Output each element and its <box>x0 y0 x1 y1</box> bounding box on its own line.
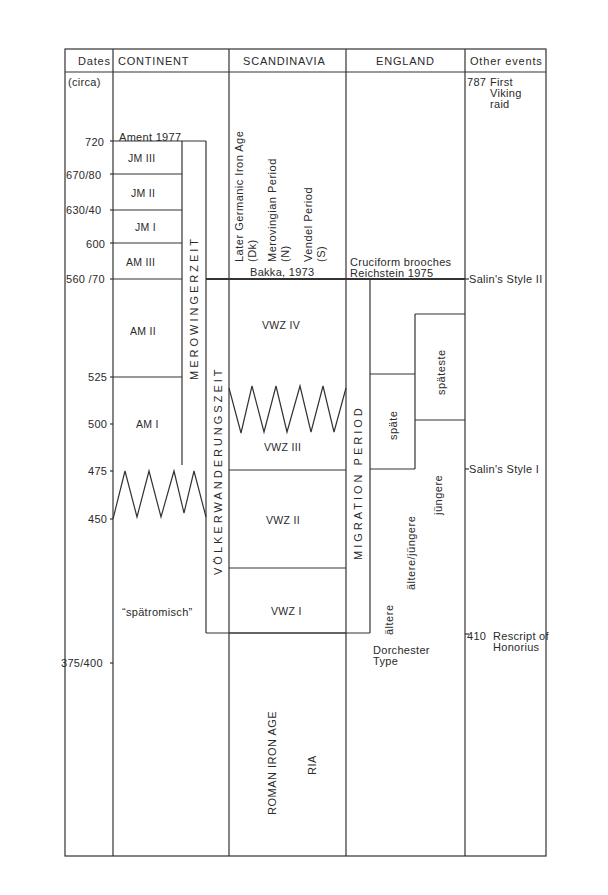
event-viking-line3: raid <box>490 98 510 110</box>
source-ament-1977: Ament 1977 <box>119 131 181 143</box>
phase-spate: späte <box>387 411 399 440</box>
date-525: 525 <box>88 371 107 383</box>
date-560: 560 /70 <box>66 273 105 285</box>
event-salin-style-1: Salin's Style I <box>469 463 539 475</box>
phase-spateste: späteste <box>435 349 447 395</box>
period-code-n: (N) <box>279 245 291 262</box>
event-honorius-line2: Honorius <box>493 641 539 653</box>
phase-jm3: JM III <box>128 152 155 164</box>
period-vendel: Vendel Period <box>302 187 314 262</box>
date-475: 475 <box>88 465 107 477</box>
phase-vwz2: VWZ II <box>266 514 300 526</box>
date-450: 450 <box>88 513 107 525</box>
source-type: Type <box>373 655 398 667</box>
band-merowingerzeit: MEROWINGERZEIT <box>188 236 200 380</box>
period-later-germanic-iron-age: Later Germanic Iron Age <box>233 131 245 262</box>
phase-vwz3: VWZ III <box>264 441 301 453</box>
phase-altere-jungere: ältere/jüngere <box>405 516 417 590</box>
date-670: 670/80 <box>66 169 101 181</box>
phase-jungere: jüngere <box>432 475 444 515</box>
header-other-events: Other events <box>470 55 543 67</box>
phase-jm2: JM II <box>131 187 155 199</box>
chart-grid-lines <box>0 0 608 895</box>
header-dates: Dates <box>78 55 111 67</box>
phase-vwz1: VWZ I <box>271 605 302 617</box>
event-salin-style-2: Salin's Style II <box>469 273 543 285</box>
date-720: 720 <box>85 136 104 148</box>
period-roman-iron-age: ROMAN IRON AGE <box>266 711 278 815</box>
date-circa: (circa) <box>68 76 101 88</box>
header-scandinavia: SCANDINAVIA <box>243 55 326 67</box>
band-migration-period: MIGRATION PERIOD <box>352 405 364 560</box>
period-code-dk: (Dk) <box>246 239 258 262</box>
band-volkerwanderungszeit: VÖLKERWANDERUNGSZEIT <box>212 366 224 575</box>
header-england: ENGLAND <box>376 55 435 67</box>
phase-altere: ältere <box>383 604 395 635</box>
date-600: 600 <box>86 238 105 250</box>
phase-am3: AM III <box>126 256 155 268</box>
header-continent: CONTINENT <box>118 55 189 67</box>
phase-am1: AM I <box>136 418 159 430</box>
period-ria: RIA <box>306 755 318 775</box>
period-code-s: (S) <box>315 246 327 262</box>
event-787-date: 787 <box>467 76 486 88</box>
phase-jm1: JM I <box>135 221 156 233</box>
phase-vwz4: VWZ IV <box>262 319 300 331</box>
date-500: 500 <box>88 418 107 430</box>
source-bakka-1973: Bakka, 1973 <box>250 266 314 278</box>
source-reichstein-1975: Reichstein 1975 <box>350 267 433 279</box>
date-630: 630/40 <box>66 204 101 216</box>
phase-am2: AM II <box>130 325 156 337</box>
period-merovingian: Merovingian Period <box>266 158 278 262</box>
event-410-date: 410 <box>467 630 486 642</box>
date-375: 375/400 <box>61 657 103 669</box>
phase-spatromisch: “spätromisch” <box>122 606 193 618</box>
